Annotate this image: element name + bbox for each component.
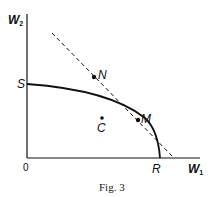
label-m: M	[141, 113, 151, 125]
tangent-line	[52, 33, 174, 158]
point-c	[100, 116, 104, 120]
x-axis-label: W1	[188, 163, 203, 176]
point-n	[92, 75, 96, 79]
figure-caption: Fig. 3	[99, 181, 125, 193]
label-c: C	[97, 122, 106, 134]
y-axis-label: W2	[8, 14, 23, 27]
label-r: R	[152, 163, 161, 175]
label-s: S	[17, 78, 25, 90]
label-n: N	[98, 69, 107, 81]
origin-label: 0	[23, 163, 29, 173]
diagram-canvas	[0, 0, 211, 197]
point-m	[136, 118, 140, 122]
